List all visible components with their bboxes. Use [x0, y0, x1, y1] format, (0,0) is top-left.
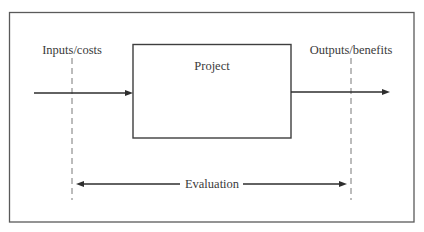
- arrowhead-icon: [125, 90, 133, 96]
- arrowhead-icon: [382, 89, 390, 95]
- output-arrow: [291, 89, 390, 95]
- input-arrow: [34, 90, 133, 96]
- outputs-label: Outputs/benefits: [310, 43, 393, 57]
- project-label: Project: [194, 59, 230, 73]
- arrowhead-left-icon: [76, 181, 84, 187]
- evaluation-label: Evaluation: [185, 177, 240, 191]
- inputs-label: Inputs/costs: [42, 43, 102, 57]
- arrowhead-right-icon: [339, 181, 347, 187]
- diagram-canvas: Project Inputs/costs Outputs/benefits Ev…: [0, 0, 424, 232]
